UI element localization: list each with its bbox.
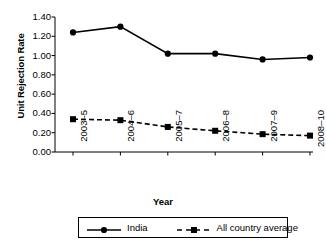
x-axis-tick-label: 2007–9 [268,110,279,156]
x-axis-tick-labels: 2003–52004–62005–72006–82007–92008–10 [0,0,326,246]
x-axis-tick-label: 2008–10 [315,110,326,156]
x-axis-tick-label: 2004–6 [125,110,136,156]
x-axis-tick-label: 2003–5 [78,110,89,156]
x-axis-title: Year [0,196,326,207]
legend-dashed-square-icon [176,222,212,234]
legend-label-india: India [127,222,148,234]
legend-line-circle-icon [86,222,122,234]
legend-entry-india: India [86,218,148,237]
legend-label-all-country-average: All country average [217,222,298,234]
legend-entry-all-country-average: All country average [176,218,298,237]
chart-legend: India All country average [78,217,288,238]
x-axis-tick-label: 2005–7 [173,110,184,156]
x-axis-tick-label: 2006–8 [220,110,231,156]
line-chart: Unit Rejection Rate 0.000.200.400.600.80… [0,0,326,246]
